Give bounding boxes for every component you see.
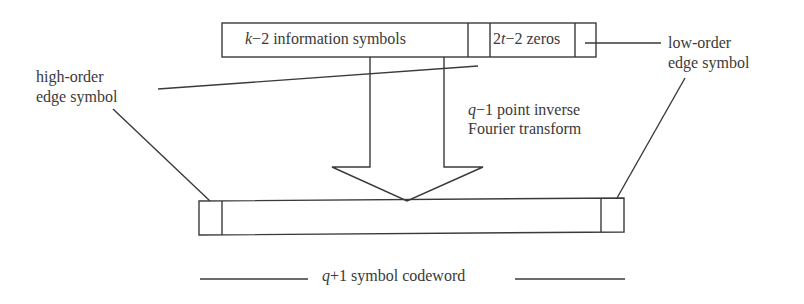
- high-order-label-line2: edge symbol: [36, 87, 117, 107]
- transform-label-line1: q−1 point inverse: [468, 100, 580, 120]
- zeros-label: 2t−2 zeros: [493, 29, 560, 49]
- transform-arrow: [332, 57, 483, 201]
- low-order-label-line1: low-order: [668, 33, 731, 53]
- info-symbols-label: k−2 information symbols: [245, 29, 406, 49]
- codeword-label: q+1 symbol codeword: [322, 266, 465, 286]
- transform-label-line2: Fourier transform: [468, 119, 581, 139]
- high-order-label-line1: high-order: [36, 67, 104, 87]
- low-order-leader-bottom: [617, 78, 685, 198]
- high-order-leader-bottom: [113, 109, 210, 201]
- codeword-frame: [199, 198, 624, 235]
- low-order-label-line2: edge symbol: [668, 53, 749, 73]
- high-order-leader-top: [158, 66, 478, 89]
